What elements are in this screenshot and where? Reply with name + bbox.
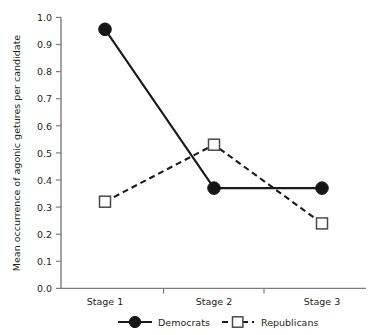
y-tick-labels: 1.0 0.9 0.8 0.7 0.6 0.5 0.4 0.3 0.2 0.1 … [37, 12, 52, 294]
y-tick-label: 0.4 [37, 175, 52, 186]
x-tick-marks [164, 288, 264, 293]
y-axis-title: Mean occurrence of agonic getures per ca… [11, 35, 22, 272]
y-tick-label: 0.2 [37, 229, 52, 240]
y-tick-marks [56, 17, 61, 288]
y-tick-label: 0.1 [37, 256, 52, 267]
data-point-democrats-stage-1 [99, 23, 112, 36]
legend-label-democrats: Democrats [158, 317, 210, 328]
legend-label-republicans: Republicans [261, 317, 318, 328]
y-tick-label: 1.0 [37, 12, 52, 23]
y-tick-label: 0.0 [37, 283, 52, 294]
data-point-democrats-stage-3 [316, 182, 329, 195]
series-line-democrats [105, 29, 322, 188]
series-markers-democrats [99, 23, 329, 194]
y-tick-label: 0.5 [37, 148, 52, 159]
data-point-democrats-stage-2 [208, 182, 221, 195]
data-point-republicans-stage-1 [100, 196, 111, 207]
legend-marker-open-square-icon [233, 317, 243, 327]
legend-marker-filled-circle-icon [129, 316, 140, 327]
legend-entry-republicans[interactable]: Republicans [222, 317, 318, 328]
legend-entry-democrats[interactable]: Democrats [118, 316, 210, 328]
x-tick-labels: Stage 1 Stage 2 Stage 3 [87, 296, 341, 307]
x-tick-label-stage-1: Stage 1 [87, 296, 124, 307]
y-tick-label: 0.6 [37, 121, 52, 132]
chart-figure: Mean occurrence of agonic getures per ca… [0, 0, 382, 335]
y-tick-label: 0.7 [37, 93, 52, 104]
x-tick-label-stage-3: Stage 3 [304, 296, 341, 307]
chart-legend: Democrats Republicans [118, 316, 318, 328]
y-tick-label: 0.8 [37, 66, 52, 77]
x-tick-label-stage-2: Stage 2 [196, 296, 233, 307]
y-tick-label: 0.9 [37, 39, 52, 50]
data-point-republicans-stage-3 [317, 218, 328, 229]
y-tick-label: 0.3 [37, 202, 52, 213]
line-chart: Mean occurrence of agonic getures per ca… [0, 0, 382, 335]
data-point-republicans-stage-2 [209, 139, 220, 150]
